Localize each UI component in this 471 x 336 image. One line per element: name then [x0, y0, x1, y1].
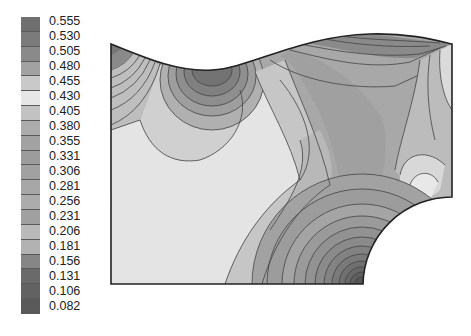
- contour-plot: [0, 0, 471, 336]
- contour-fill: [100, 20, 471, 336]
